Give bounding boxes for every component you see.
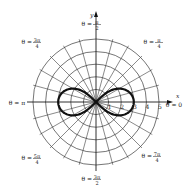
angle-label-prefix: θ =	[81, 20, 92, 27]
angle-label-prefix: θ =	[141, 152, 152, 159]
angle-label-theta-pi-2: θ = π2	[81, 19, 101, 31]
axis-labels: xy	[89, 11, 180, 99]
angle-label-prefix: θ =	[21, 154, 32, 161]
angle-label-theta-5pi-4: θ = 5π4	[21, 153, 41, 165]
angle-label-denominator: 4	[155, 157, 158, 163]
angle-label-theta-7pi-4: θ = 7π4	[141, 151, 161, 163]
angle-label-text: θ = π	[9, 99, 25, 106]
angle-label-theta-3pi-4: θ = 3π4	[21, 37, 41, 49]
cartesian-axes	[27, 11, 173, 171]
angle-label-denominator: 4	[157, 43, 160, 49]
angle-label-prefix: θ =	[81, 175, 92, 182]
angle-label-theta-pi-4: θ = π4	[143, 37, 163, 49]
radial-tick-4: 4	[145, 103, 149, 110]
radial-tick-labels: 12345	[108, 103, 162, 110]
angle-label-theta-0: θ = 0	[166, 101, 182, 108]
radial-tick-1: 1	[108, 103, 112, 110]
angle-label-prefix: θ =	[21, 38, 32, 45]
radial-tick-2: 2	[120, 103, 124, 110]
angle-label-text: θ = 0	[166, 101, 182, 108]
radial-tick-5: 5	[158, 103, 162, 110]
angle-label-theta-3pi-2: θ = 3π2	[81, 174, 101, 186]
angle-label-theta-pi: θ = π	[9, 99, 25, 106]
angle-label-denominator: 4	[35, 43, 38, 49]
angle-label-denominator: 2	[95, 180, 98, 186]
radial-tick-3: 3	[133, 103, 137, 110]
angle-label-denominator: 4	[35, 159, 38, 165]
x-axis-label: x	[176, 92, 180, 99]
angle-label-denominator: 2	[95, 25, 98, 31]
y-axis-arrow-icon	[94, 11, 98, 17]
angle-label-prefix: θ =	[143, 38, 154, 45]
y-axis-label: y	[89, 11, 94, 19]
polar-lemniscate-diagram: 12345 θ = 0θ = π4θ = π2θ = 3π4θ = πθ = 5…	[0, 0, 193, 194]
